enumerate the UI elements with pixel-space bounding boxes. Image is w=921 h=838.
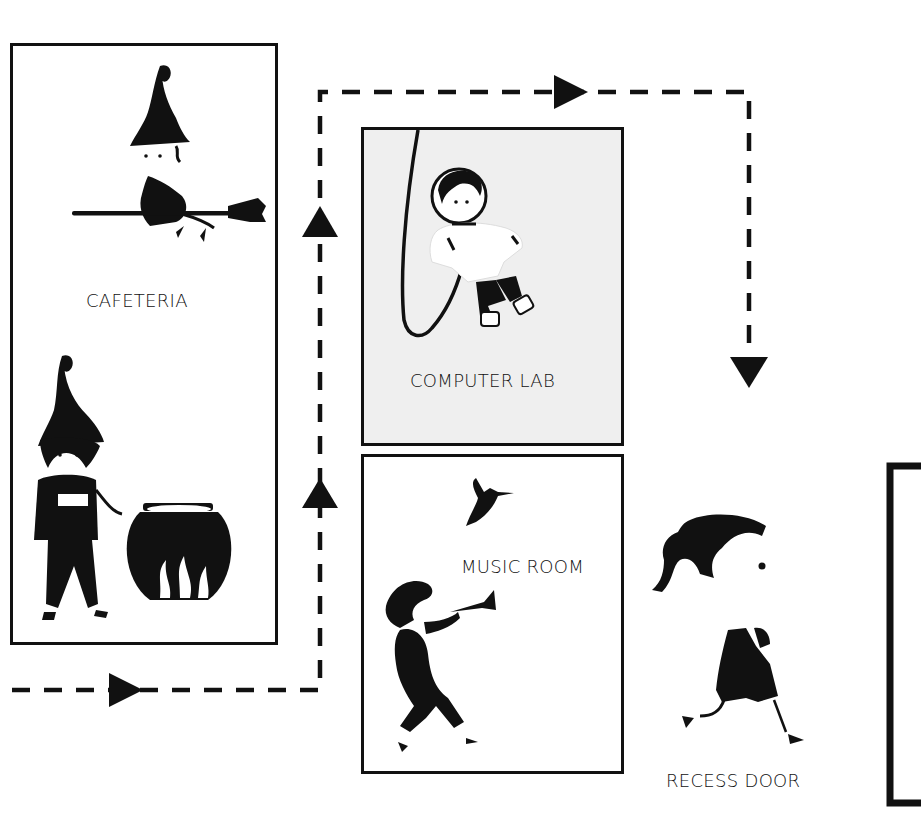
astronaut-icon — [403, 130, 535, 336]
arrow-down-icon — [730, 357, 768, 388]
witch-on-broom-icon — [72, 65, 266, 242]
trumpet-player-icon — [386, 581, 496, 752]
arrow-up-icon — [302, 206, 338, 237]
arrow-right-icon — [554, 75, 588, 109]
arrow-right-icon — [109, 673, 143, 707]
diagram-graphics — [0, 0, 921, 838]
hummingbird-icon — [466, 478, 514, 526]
witch-with-cauldron-icon — [34, 355, 231, 620]
running-girl-icon — [652, 515, 804, 744]
route-path — [12, 92, 749, 690]
school-route-diagram: CAFETERIA COMPUTER LAB MUSIC ROOM RECESS… — [0, 0, 921, 838]
arrow-up-icon — [302, 478, 338, 508]
door-frame-icon — [890, 466, 921, 803]
route-arrows — [109, 75, 768, 707]
